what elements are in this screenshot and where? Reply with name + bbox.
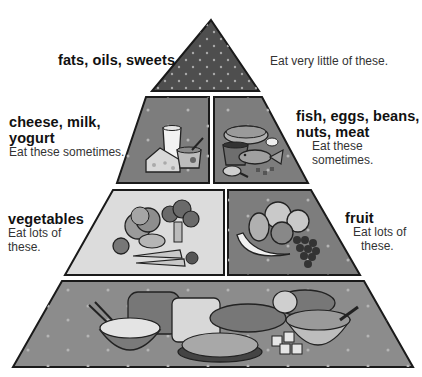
tier-fruit [228,190,360,275]
vegetables-desc-line2: these. [8,241,84,254]
protein-desc-line2: sometimes. [296,154,419,167]
pasta-plate-icon [178,333,262,362]
dairy-title-line2: yogurt [9,130,124,146]
potato-icon [139,234,165,248]
vegetables-desc-line1: Eat lots of [8,227,84,240]
label-vegetables: vegetables Eat lots of these. [8,211,84,254]
fruit-desc-line1: Eat lots of [353,226,406,239]
label-fruit: fruit Eat lots of these. [345,210,406,253]
tomato-icon [113,238,129,254]
fats-desc: Eat very little of these. [270,55,388,68]
apple-icon [271,222,293,244]
protein-title-line2: nuts, meat [296,124,419,140]
fruit-desc-line2: these. [361,240,406,253]
pear-icon [249,213,269,241]
dairy-desc: Eat these sometimes. [9,146,124,159]
fats-title: fats, oils, sweets [58,52,175,68]
protein-desc-line1: Eat these [296,140,419,153]
label-dairy: cheese, milk, yogurt Eat these sometimes… [9,114,124,160]
tier-vegetables [65,190,224,275]
tier-protein [214,97,308,183]
protein-title-line1: fish, eggs, beans, [296,108,419,124]
vegetables-title: vegetables [8,211,84,227]
label-protein: fish, eggs, beans, nuts, meat Eat these … [296,108,419,167]
desc-fats: Eat very little of these. [270,55,388,68]
tier-dairy [117,97,209,183]
tier-grains [13,281,413,367]
fruit-title: fruit [345,210,406,226]
dairy-title-line1: cheese, milk, [9,114,124,130]
label-fats: fats, oils, sweets [58,52,175,68]
